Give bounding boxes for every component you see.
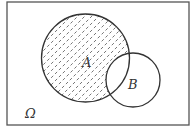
venn-diagram: A B Ω: [0, 0, 191, 135]
universe-label: Ω: [24, 106, 36, 121]
set-b-label: B: [127, 77, 138, 92]
set-a-label: A: [81, 55, 91, 70]
